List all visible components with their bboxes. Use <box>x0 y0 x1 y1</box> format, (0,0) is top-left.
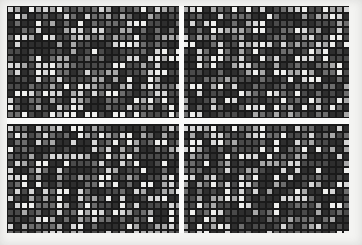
mosaic-screenshot <box>0 0 362 245</box>
horizontal-gutter-band <box>7 118 349 124</box>
vertical-gutter-stripe <box>179 6 184 233</box>
